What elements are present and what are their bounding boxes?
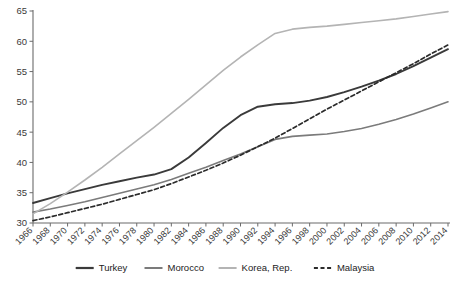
x-tick-label: 1988 [203, 225, 224, 246]
y-tick-label: 45 [16, 127, 27, 138]
chart-canvas: 3035404550556065 19661968197019721974197… [0, 0, 455, 283]
x-tick-label: 2006 [359, 225, 380, 246]
line-chart: 3035404550556065 19661968197019721974197… [0, 0, 455, 283]
y-axis: 3035404550556065 [16, 5, 33, 228]
x-tick-label: 1974 [82, 225, 103, 246]
x-tick-label: 2012 [411, 225, 432, 246]
x-tick-label: 1986 [186, 225, 207, 246]
series-line-turkey [33, 49, 448, 203]
x-tick-label: 1972 [65, 225, 86, 246]
legend-item-turkey-label: Turkey [99, 262, 128, 273]
x-tick-label: 1984 [169, 225, 190, 246]
x-tick-label: 1980 [134, 225, 155, 246]
x-axis: 1966196819701972197419761978198019821984… [13, 223, 450, 247]
x-tick-label: 2014 [428, 225, 449, 246]
x-tick-label: 2002 [324, 225, 345, 246]
x-tick-label: 1970 [48, 225, 69, 246]
x-tick-label: 1978 [117, 225, 138, 246]
x-tick-label: 2010 [394, 225, 415, 246]
x-tick-label: 1996 [273, 225, 294, 246]
legend-item-malaysia-label: Malaysia [337, 262, 375, 273]
legend-item-morocco-label: Morocco [168, 262, 204, 273]
chart-legend: TurkeyMoroccoKorea, Rep.Malaysia [76, 262, 375, 273]
series-line-korea-rep [33, 12, 448, 214]
x-tick-label: 2000 [307, 225, 328, 246]
series-line-malaysia [33, 45, 448, 221]
x-tick-label: 2004 [342, 225, 363, 246]
y-tick-label: 65 [16, 5, 27, 16]
x-tick-label: 1982 [152, 225, 173, 246]
x-tick-label: 2008 [376, 225, 397, 246]
x-tick-label: 1994 [255, 225, 276, 246]
x-tick-label: 1990 [221, 225, 242, 246]
x-tick-label: 1992 [238, 225, 259, 246]
legend-item-korea-rep-label: Korea, Rep. [242, 262, 293, 273]
y-tick-label: 60 [16, 36, 27, 47]
x-tick-label: 1966 [13, 225, 34, 246]
y-tick-label: 50 [16, 96, 27, 107]
x-tick-label: 1976 [100, 225, 121, 246]
y-tick-label: 55 [16, 66, 27, 77]
x-tick-label: 1998 [290, 225, 311, 246]
series-lines [33, 12, 448, 221]
x-tick-label: 1968 [30, 225, 51, 246]
y-tick-label: 35 [16, 187, 27, 198]
y-tick-label: 40 [16, 157, 27, 168]
series-line-morocco [33, 102, 448, 212]
